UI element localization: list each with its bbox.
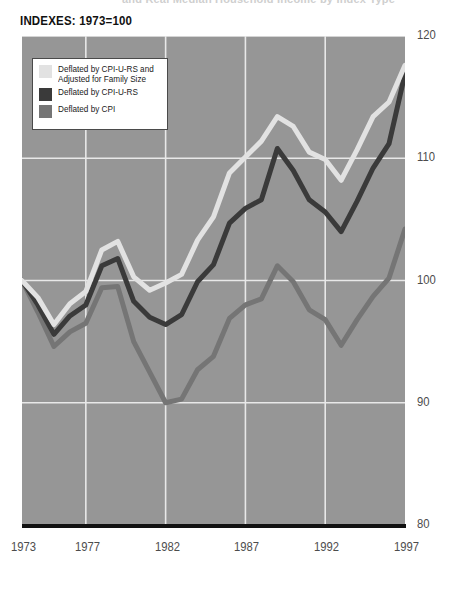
- x-axis-tick-1997: 1997: [394, 540, 419, 554]
- legend-item-1: Deflated by CPI-U-RS: [39, 87, 162, 101]
- legend-label-1: Deflated by CPI-U-RS: [58, 87, 138, 97]
- x-axis-tick-1977: 1977: [75, 540, 100, 554]
- legend-swatch-icon-0: [39, 65, 52, 78]
- clipped-title-strip: and Real Median Household Income by Inde…: [0, 0, 457, 11]
- y-axis-tick-90: 90: [417, 395, 430, 409]
- legend-item-0: Deflated by CPI-U-RS and Adjusted for Fa…: [39, 64, 162, 84]
- x-axis-tick-1982: 1982: [155, 540, 180, 554]
- x-axis-baseline: [22, 524, 406, 528]
- legend-label-2: Deflated by CPI: [58, 104, 115, 114]
- chart-page: and Real Median Household Income by Inde…: [0, 0, 457, 589]
- chart-legend: Deflated by CPI-U-RS and Adjusted for Fa…: [32, 58, 168, 130]
- legend-swatch-icon-2: [39, 105, 52, 118]
- legend-item-2: Deflated by CPI: [39, 104, 162, 118]
- legend-label-0: Deflated by CPI-U-RS and Adjusted for Fa…: [58, 64, 154, 84]
- y-axis-tick-110: 110: [417, 150, 435, 164]
- x-axis-tick-1987: 1987: [234, 540, 259, 554]
- chart-index-note: INDEXES: 1973=100: [20, 14, 132, 28]
- legend-swatch-icon-1: [39, 88, 52, 101]
- series-line-2: [22, 229, 405, 403]
- x-axis-tick-1992: 1992: [314, 540, 339, 554]
- clipped-title-text: and Real Median Household Income by Inde…: [122, 0, 395, 5]
- y-axis-tick-80: 80: [417, 517, 430, 531]
- x-axis-tick-1973: 1973: [11, 540, 36, 554]
- y-axis-tick-100: 100: [417, 273, 436, 287]
- y-axis-tick-120: 120: [417, 28, 436, 42]
